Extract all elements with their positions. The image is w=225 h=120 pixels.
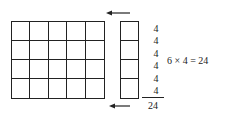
grid-cell bbox=[30, 22, 48, 41]
grid-cell bbox=[86, 22, 104, 41]
addend: 4 bbox=[148, 60, 164, 72]
grid-cell bbox=[30, 60, 48, 79]
sum-total: 24 bbox=[143, 100, 163, 111]
column-cell bbox=[121, 79, 138, 98]
grid-cell bbox=[12, 41, 30, 60]
single-column-4 bbox=[120, 21, 139, 99]
grid-cell bbox=[67, 22, 85, 41]
sum-rule bbox=[142, 97, 164, 98]
grid-cell bbox=[86, 41, 104, 60]
array-grid-4x5 bbox=[11, 21, 105, 99]
left-arrow-top-icon bbox=[106, 9, 131, 17]
grid-cell bbox=[30, 41, 48, 60]
column-cell bbox=[121, 60, 138, 79]
grid-cell bbox=[67, 60, 85, 79]
grid-cell bbox=[12, 79, 30, 98]
grid-cell bbox=[67, 79, 85, 98]
grid-cell bbox=[12, 22, 30, 41]
addend: 4 bbox=[148, 85, 164, 97]
grid-cell bbox=[49, 22, 67, 41]
addend: 4 bbox=[148, 48, 164, 60]
addend: 4 bbox=[148, 73, 164, 85]
grid-cell bbox=[49, 41, 67, 60]
grid-cell bbox=[86, 79, 104, 98]
multiplication-equation: 6 × 4 = 24 bbox=[167, 55, 208, 66]
left-arrow-bottom-icon bbox=[109, 102, 131, 110]
grid-cell bbox=[86, 60, 104, 79]
grid-cell bbox=[49, 79, 67, 98]
addend-list: 4 4 4 4 4 4 bbox=[148, 23, 164, 97]
grid-cell bbox=[30, 79, 48, 98]
grid-cell bbox=[12, 60, 30, 79]
addend: 4 bbox=[148, 35, 164, 47]
column-cell bbox=[121, 22, 138, 41]
grid-cell bbox=[67, 41, 85, 60]
grid-cell bbox=[49, 60, 67, 79]
column-cell bbox=[121, 41, 138, 60]
addend: 4 bbox=[148, 23, 164, 35]
